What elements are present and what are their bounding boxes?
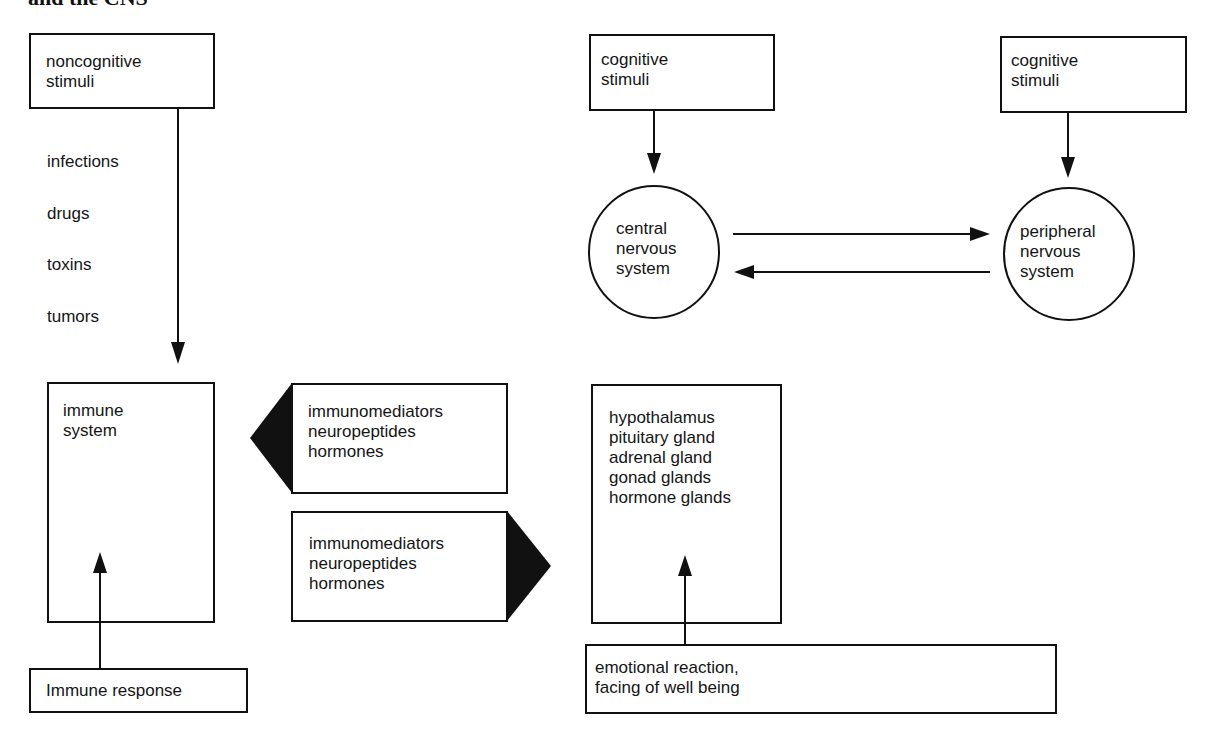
emotional-reaction-node[interactable]: emotional reaction, facing of well being — [585, 644, 1057, 714]
mediators-to-endocrine-label: immunomediators neuropeptides hormones — [309, 534, 444, 594]
mediators-to-immune-node[interactable]: immunomediators neuropeptides hormones — [291, 383, 508, 494]
cognitive-stimuli-pns-label: cognitive stimuli — [1011, 51, 1078, 91]
immune-response-label: Immune response — [46, 681, 182, 701]
noncognitive-stimuli-label: noncognitive stimuli — [46, 52, 141, 92]
immune-system-node[interactable]: immune system — [47, 382, 215, 623]
endocrine-glands-label: hypothalamus pituitary gland adrenal gla… — [609, 408, 731, 508]
cns-label: central nervous system — [616, 219, 676, 279]
mediators-to-immune-label: immunomediators neuropeptides hormones — [308, 402, 443, 462]
emotional-reaction-label: emotional reaction, facing of well being — [595, 658, 740, 698]
arrow-cns-to-pns — [733, 227, 990, 241]
cognitive-stimuli-pns-node[interactable]: cognitive stimuli — [1000, 36, 1187, 113]
example-infections: infections — [47, 152, 119, 172]
example-tumors: tumors — [47, 307, 99, 327]
arrow-pns-to-cns — [734, 265, 990, 279]
mediators-right-arrowhead — [507, 511, 551, 621]
mediators-to-endocrine-node[interactable]: immunomediators neuropeptides hormones — [291, 511, 508, 622]
example-toxins: toxins — [47, 255, 91, 275]
endocrine-glands-node[interactable]: hypothalamus pituitary gland adrenal gla… — [591, 384, 782, 624]
arrow-cognitive-to-pns — [1061, 112, 1075, 178]
arrow-noncognitive-to-immune — [171, 108, 185, 364]
noncognitive-stimuli-node[interactable]: noncognitive stimuli — [29, 33, 215, 109]
immune-response-node[interactable]: Immune response — [29, 668, 248, 713]
arrow-cognitive-to-cns — [647, 110, 661, 174]
example-drugs: drugs — [47, 204, 90, 224]
immune-system-label: immune system — [63, 401, 123, 441]
pns-label: peripheral nervous system — [1020, 222, 1096, 282]
cognitive-stimuli-cns-label: cognitive stimuli — [601, 50, 668, 90]
cognitive-stimuli-cns-node[interactable]: cognitive stimuli — [589, 34, 775, 111]
mediators-left-arrowhead — [250, 383, 292, 493]
